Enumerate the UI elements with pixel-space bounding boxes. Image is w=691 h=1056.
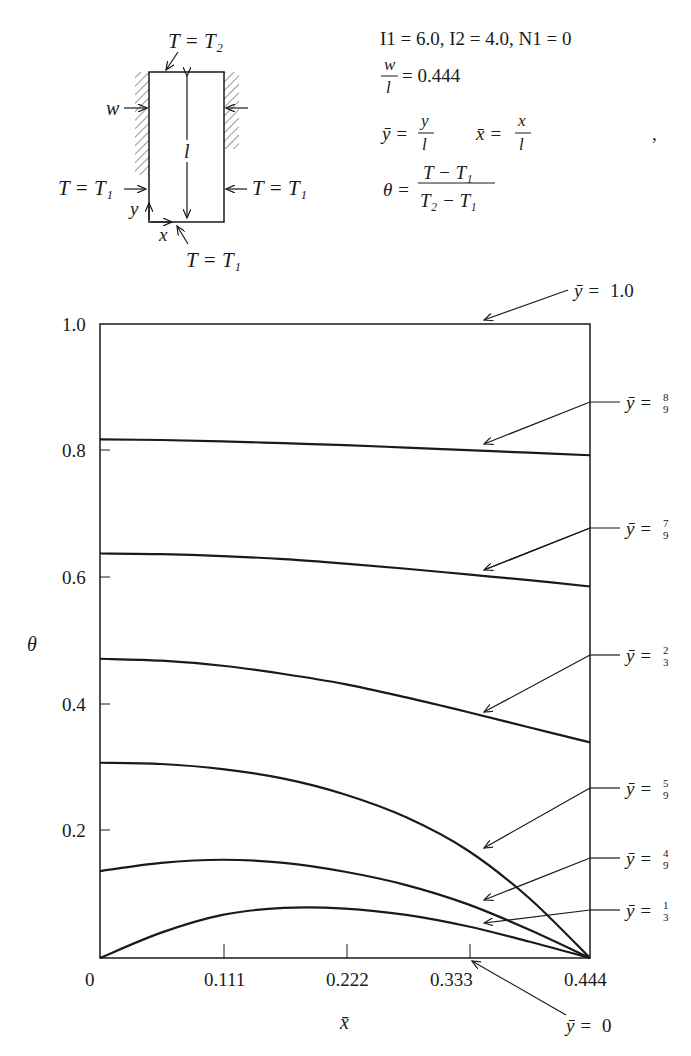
bottom-boundary-arrow xyxy=(177,226,188,244)
right-boundary-label: T = T₁ xyxy=(252,176,307,200)
figure-canvas: l T = T₂ w T = T₁ T = T₁ y x T = T₁ I1 =… xyxy=(0,0,691,1056)
svg-text:3: 3 xyxy=(663,656,669,668)
svg-text:ȳ =: ȳ = xyxy=(624,392,652,413)
theta-definition-den: T₂ − T₁ xyxy=(420,190,477,211)
left-insulation-hatch xyxy=(135,72,149,175)
xbar-definition-num: x xyxy=(517,111,526,130)
top-boundary-label: T = T₂ xyxy=(168,29,223,53)
top-boundary-arrow xyxy=(166,52,178,70)
parameters-line: I1 = 6.0, I2 = 4.0, N1 = 0 xyxy=(380,28,572,49)
ybar-definition-den: l xyxy=(422,135,427,154)
svg-text:ȳ =: ȳ = xyxy=(572,280,600,301)
annotation-ybar-8-9: ȳ = 8 9 xyxy=(624,391,669,415)
svg-text:9: 9 xyxy=(663,859,669,871)
x-tick-0.111: 0.111 xyxy=(204,969,245,990)
annotation-ybar-2-3: ȳ = 2 3 xyxy=(624,644,669,668)
y-axis-label: θ xyxy=(27,633,37,655)
svg-text:2: 2 xyxy=(663,644,669,656)
x-tick-0.333: 0.333 xyxy=(430,969,473,990)
y-coordinate-label: y xyxy=(128,198,139,219)
svg-text:7: 7 xyxy=(663,517,669,529)
annotation-ybar-0: ȳ = 0 xyxy=(564,1015,612,1036)
x-tick-0.444: 0.444 xyxy=(564,969,607,990)
svg-text:5: 5 xyxy=(663,777,669,789)
ybar-definition-lhs: ȳ = xyxy=(380,123,408,144)
annotation-labels: ȳ = 1.0 ȳ = 8 9 ȳ = 7 9 ȳ = 2 3 ȳ = 5 9 xyxy=(564,280,669,1036)
theta-chart: 1.0 0.8 0.6 0.4 0.2 0 0.111 0.222 0.333 … xyxy=(27,280,669,1036)
svg-text:4: 4 xyxy=(663,847,669,859)
curve-series xyxy=(100,439,590,958)
svg-text:1: 1 xyxy=(663,899,669,911)
x-axis-label: x̄ xyxy=(339,1011,349,1033)
right-insulation-hatch xyxy=(224,72,239,149)
annotation-leaders xyxy=(472,290,620,1015)
trailing-comma: , xyxy=(652,123,657,144)
xbar-definition-lhs: x̄ = xyxy=(475,123,502,144)
width-label: w xyxy=(106,97,120,119)
svg-text:1.0: 1.0 xyxy=(610,280,634,301)
annotation-ybar-5-9: ȳ = 5 9 xyxy=(624,777,669,801)
svg-text:ȳ =: ȳ = xyxy=(564,1015,592,1036)
ratio-value: = 0.444 xyxy=(402,65,461,86)
svg-text:ȳ =: ȳ = xyxy=(624,848,652,869)
x-axis-ticks: 0 0.111 0.222 0.333 0.444 xyxy=(85,944,607,990)
x-tick-0.222: 0.222 xyxy=(326,969,369,990)
annotation-ybar-7-9: ȳ = 7 9 xyxy=(624,517,669,541)
ybar-definition-num: y xyxy=(419,111,429,130)
svg-text:ȳ =: ȳ = xyxy=(624,900,652,921)
bottom-boundary-label: T = T₁ xyxy=(186,248,241,272)
ratio-numerator: w xyxy=(384,55,396,74)
curve-ybar-8-9 xyxy=(100,439,590,455)
ratio-denominator: l xyxy=(386,78,391,97)
svg-text:ȳ =: ȳ = xyxy=(624,778,652,799)
y-tick-0.4: 0.4 xyxy=(62,694,86,715)
theta-definition-lhs: θ = xyxy=(383,179,410,200)
left-boundary-label: T = T₁ xyxy=(58,176,113,200)
y-tick-0.6: 0.6 xyxy=(62,567,86,588)
curve-ybar-7-9 xyxy=(100,554,590,587)
annotation-ybar-1.0: ȳ = 1.0 xyxy=(572,280,634,301)
annotation-ybar-4-9: ȳ = 4 9 xyxy=(624,847,669,871)
svg-text:9: 9 xyxy=(663,529,669,541)
curve-ybar-2-3 xyxy=(100,659,590,743)
x-coordinate-label: x xyxy=(158,224,168,245)
y-tick-1.0: 1.0 xyxy=(62,314,86,335)
length-label: l xyxy=(184,140,190,162)
xbar-definition-den: l xyxy=(519,135,524,154)
schematic-diagram: l T = T₂ w T = T₁ T = T₁ y x T = T₁ xyxy=(58,29,307,272)
svg-text:9: 9 xyxy=(663,403,669,415)
svg-text:9: 9 xyxy=(663,789,669,801)
svg-text:ȳ =: ȳ = xyxy=(624,518,652,539)
parameters-block: I1 = 6.0, I2 = 4.0, N1 = 0 w l = 0.444 ȳ… xyxy=(380,28,657,211)
x-tick-0: 0 xyxy=(85,969,95,990)
curve-ybar-1-3 xyxy=(100,907,590,958)
svg-text:8: 8 xyxy=(663,391,669,403)
svg-text:0: 0 xyxy=(602,1015,612,1036)
svg-text:3: 3 xyxy=(663,911,669,923)
y-tick-0.2: 0.2 xyxy=(62,820,86,841)
annotation-ybar-1-3: ȳ = 1 3 xyxy=(624,899,669,923)
svg-text:ȳ =: ȳ = xyxy=(624,645,652,666)
y-tick-0.8: 0.8 xyxy=(62,440,86,461)
theta-definition-num: T − T₁ xyxy=(423,162,473,183)
